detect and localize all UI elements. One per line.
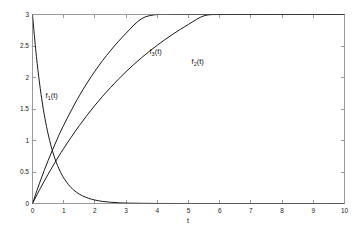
x-tick-label: 3 (124, 207, 128, 214)
y-tick-label: 3 (25, 11, 29, 18)
y-tick-label: 0.5 (20, 168, 29, 175)
y-tick-label: 0 (25, 200, 29, 207)
curve-label-2: f2(t) (192, 57, 205, 67)
tick-marks (33, 15, 345, 204)
tick-labels: 01234567891000.511.522.53 (20, 11, 349, 214)
figure-canvas: 01234567891000.511.522.53 f1(t)f2(t)f3(t… (0, 0, 357, 234)
curve-3 (33, 14, 345, 203)
curves (33, 14, 345, 203)
curve-label-3: f3(t) (150, 47, 163, 57)
x-tick-label: 6 (218, 207, 222, 214)
x-tick-label: 5 (187, 207, 191, 214)
curve-2 (33, 14, 345, 203)
x-tick-label: 7 (249, 207, 253, 214)
x-tick-label: 0 (31, 207, 35, 214)
y-tick-label: 1.5 (20, 105, 29, 112)
curve-paths (33, 14, 345, 203)
y-tick-label: 1 (25, 137, 29, 144)
curve-labels: f1(t)f2(t)f3(t) (46, 47, 205, 100)
x-axis-label: t (187, 217, 189, 224)
x-tick-label: 1 (62, 207, 66, 214)
axes-box (33, 15, 345, 204)
y-tick-label: 2 (25, 74, 29, 81)
x-tick-label: 2 (93, 207, 97, 214)
x-tick-label: 10 (341, 207, 349, 214)
y-tick-label: 2.5 (20, 42, 29, 49)
x-tick-label: 4 (155, 207, 159, 214)
axes-frame (33, 15, 345, 204)
curve-1 (33, 15, 345, 204)
curve-label-1: f1(t) (46, 91, 59, 101)
x-tick-label: 8 (280, 207, 284, 214)
plot-svg: 01234567891000.511.522.53 f1(t)f2(t)f3(t… (0, 0, 357, 234)
x-tick-label: 9 (311, 207, 315, 214)
